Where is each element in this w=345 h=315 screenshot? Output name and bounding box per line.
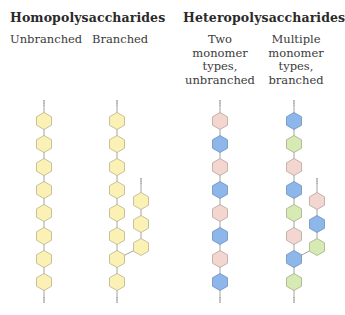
monomer-hexagon <box>110 274 125 291</box>
monomer-hexagon <box>213 182 228 199</box>
monomer-hexagon <box>213 205 228 222</box>
monomer-hexagon <box>310 216 325 233</box>
monomer-hexagon <box>37 136 52 153</box>
monomer-hexagon <box>213 159 228 176</box>
monomer-hexagon <box>110 205 125 222</box>
monomer-hexagon <box>213 113 228 130</box>
monomer-hexagon <box>287 113 302 130</box>
monomer-hexagon <box>213 251 228 268</box>
monomer-hexagon <box>37 182 52 199</box>
monomer-hexagon <box>310 239 325 256</box>
monomer-hexagon <box>37 251 52 268</box>
monomer-hexagon <box>287 136 302 153</box>
monomer-hexagon <box>37 113 52 130</box>
monomer-hexagon <box>134 193 149 210</box>
monomer-hexagon <box>110 159 125 176</box>
monomer-hexagon <box>37 159 52 176</box>
monomer-hexagon <box>287 182 302 199</box>
monomer-hexagon <box>110 228 125 245</box>
monomer-hexagon <box>110 182 125 199</box>
monomer-hexagon <box>37 274 52 291</box>
monomer-hexagon <box>287 251 302 268</box>
monomer-hexagon <box>287 159 302 176</box>
monomer-hexagon <box>110 251 125 268</box>
monomer-hexagon <box>287 274 302 291</box>
monomer-hexagon <box>37 228 52 245</box>
monomer-hexagon <box>287 228 302 245</box>
monomer-hexagon <box>134 239 149 256</box>
monomer-hexagon <box>310 193 325 210</box>
monomer-hexagon <box>37 205 52 222</box>
monomer-hexagon <box>134 216 149 233</box>
monomer-hexagon <box>287 205 302 222</box>
monomer-hexagon <box>213 274 228 291</box>
monomer-hexagon <box>213 228 228 245</box>
monomer-hexagon <box>110 136 125 153</box>
monomer-hexagon <box>213 136 228 153</box>
monomer-hexagon <box>110 113 125 130</box>
